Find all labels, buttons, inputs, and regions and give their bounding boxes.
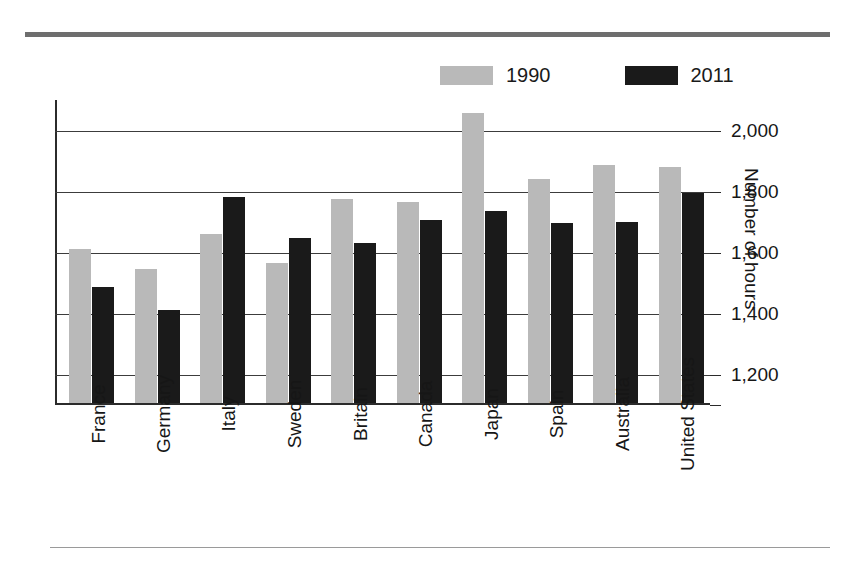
x-axis-label-spain: Spain: [514, 410, 580, 538]
legend-label-2011: 2011: [691, 65, 734, 85]
legend-item-2011: 2011: [625, 65, 734, 85]
y-tick-1600: [710, 253, 721, 254]
bar-group-spain: [514, 100, 580, 403]
bar-group-germany: [121, 100, 187, 403]
bar-group-sweden: [252, 100, 318, 403]
bar-group-japan: [448, 100, 514, 403]
bottom-divider-rule: [50, 547, 830, 548]
bar-canada-2011: [420, 220, 442, 403]
legend-label-1990: 1990: [506, 65, 551, 85]
bar-group-britain: [317, 100, 383, 403]
y-tick-label-2000: 2,000: [731, 120, 779, 142]
x-axis-label-text: Canada: [415, 381, 437, 448]
bar-australia-1990: [593, 165, 615, 403]
y-tick-1800: [710, 192, 721, 193]
top-divider-rule: [25, 32, 830, 37]
x-axis-label-text: Germany: [153, 375, 175, 453]
x-axis-label-germany: Germany: [121, 410, 187, 538]
x-axis-label-sweden: Sweden: [252, 410, 318, 538]
y-tick-1400: [710, 314, 721, 315]
x-axis-label-text: France: [88, 384, 110, 443]
x-axis-label-united-states: United States: [645, 410, 711, 538]
legend-item-1990: 1990: [440, 65, 551, 85]
y-tick-label-1200: 1,200: [731, 364, 779, 386]
x-axis-label-france: France: [55, 410, 121, 538]
bar-group-canada: [383, 100, 449, 403]
x-axis-label-text: Britain: [350, 387, 372, 441]
bar-canada-1990: [397, 202, 419, 403]
bar-spain-1990: [528, 179, 550, 403]
chart-legend: 19902011: [440, 62, 734, 88]
bar-italy-2011: [223, 197, 245, 403]
bar-japan-1990: [462, 113, 484, 403]
y-axis-baseline-tick: [710, 405, 721, 406]
bar-group-italy: [186, 100, 252, 403]
x-axis-label-britain: Britain: [317, 410, 383, 538]
chart-figure: 19902011 1,2001,4001,6001,8002,000 Franc…: [0, 0, 854, 569]
bar-australia-2011: [616, 222, 638, 403]
bar-italy-1990: [200, 234, 222, 403]
bar-sweden-2011: [289, 238, 311, 403]
bar-japan-2011: [485, 211, 507, 403]
x-axis-label-text: Sweden: [284, 380, 306, 449]
x-axis-label-italy: Italy: [186, 410, 252, 538]
plot-area: 1,2001,4001,6001,8002,000: [55, 100, 710, 405]
x-axis-label-text: Japan: [481, 388, 503, 440]
bar-france-1990: [69, 249, 91, 403]
bar-britain-1990: [331, 199, 353, 403]
x-axis-label-japan: Japan: [448, 410, 514, 538]
bars-group: [55, 100, 710, 403]
y-axis-title: Number of hours: [740, 168, 762, 310]
bar-spain-2011: [551, 223, 573, 403]
legend-swatch-2011: [625, 66, 678, 85]
bar-britain-2011: [354, 243, 376, 403]
x-axis-label-canada: Canada: [383, 410, 449, 538]
y-tick-1200: [710, 375, 721, 376]
x-axis-category-labels: FranceGermanyItalySwedenBritainCanadaJap…: [55, 410, 710, 540]
y-tick-2000: [710, 131, 721, 132]
x-axis-label-text: Australia: [612, 377, 634, 451]
x-axis-label-text: United States: [677, 357, 699, 471]
bar-group-france: [55, 100, 121, 403]
bar-group-australia: [579, 100, 645, 403]
legend-swatch-1990: [440, 66, 493, 85]
x-axis-label-text: Spain: [546, 390, 568, 439]
x-axis-label-text: Italy: [219, 397, 241, 432]
x-axis-label-australia: Australia: [579, 410, 645, 538]
